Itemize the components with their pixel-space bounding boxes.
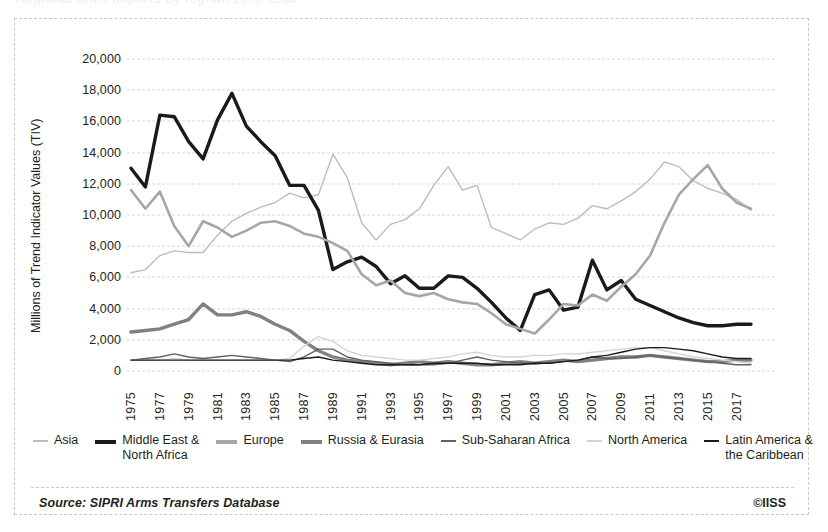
legend-label-line1: Sub-Saharan Africa: [462, 433, 570, 447]
x-tick-label: 1993: [384, 392, 398, 421]
legend-line-icon: [95, 440, 116, 444]
x-tick-label: 1981: [211, 392, 225, 421]
y-axis-label: Millions of Trend Indicator Values (TIV): [29, 0, 47, 71]
x-tick-label: 1997: [441, 392, 455, 421]
plot-area: [127, 59, 775, 371]
legend-label-line1: Russia & Eurasia: [328, 433, 424, 447]
series-line: [131, 154, 751, 273]
legend-label: Sub-Saharan Africa: [462, 433, 570, 448]
source-note: Source: SIPRI Arms Transfers Database: [39, 496, 280, 510]
figure-title-text: Regional arms imports by region, 1975-20…: [16, 0, 297, 6]
legend-label-line2: the Caribbean: [725, 448, 813, 463]
legend-item[interactable]: Asia: [33, 433, 78, 448]
y-tick-label: 6,000: [55, 270, 121, 284]
x-tick-label: 2005: [557, 392, 571, 421]
y-tick-label: 12,000: [55, 177, 121, 191]
legend-line-icon: [301, 440, 322, 444]
chart-panel: Millions of Trend Indicator Values (TIV)…: [14, 18, 809, 515]
legend-label-line1: Asia: [54, 433, 78, 447]
legend-line-icon: [441, 440, 456, 442]
x-tick-label: 2007: [585, 392, 599, 421]
series-svg: [127, 59, 775, 371]
legend-item[interactable]: Sub-Saharan Africa: [441, 433, 570, 448]
y-tick-label: 2,000: [55, 333, 121, 347]
copyright-note: ©IISS: [753, 496, 786, 510]
chart-legend: AsiaMiddle East &North AfricaEuropeRussi…: [33, 433, 793, 479]
legend-label: Europe: [243, 433, 283, 448]
legend-label: Asia: [54, 433, 78, 448]
x-axis-ticks: 1975197719791981198319851987198919911993…: [127, 375, 775, 421]
legend-line-icon: [33, 440, 48, 442]
legend-label: Middle East &North Africa: [122, 433, 199, 463]
x-tick-label: 2011: [643, 393, 657, 421]
legend-line-icon: [704, 440, 719, 442]
y-tick-label: 20,000: [55, 52, 121, 66]
x-tick-label: 1983: [239, 392, 253, 421]
y-tick-label: 10,000: [55, 208, 121, 222]
legend-label-line1: Latin America &: [725, 433, 813, 447]
legend-label-line1: Europe: [243, 433, 283, 447]
x-tick-label: 2015: [701, 392, 715, 421]
x-tick-label: 1985: [268, 392, 282, 421]
footer-divider: [31, 487, 794, 488]
x-tick-label: 2009: [614, 392, 628, 421]
legend-line-icon: [587, 440, 602, 442]
series-line: [131, 337, 751, 364]
x-tick-label: 1975: [124, 392, 138, 421]
chart-figure: Regional arms imports by region, 1975-20…: [0, 0, 828, 532]
y-tick-label: 4,000: [55, 302, 121, 316]
y-axis-ticks: 20,00018,00016,00014,00012,00010,0008,00…: [55, 59, 121, 371]
y-tick-label: 18,000: [55, 83, 121, 97]
legend-label-line2: North Africa: [122, 448, 199, 463]
legend-item[interactable]: Middle East &North Africa: [95, 433, 199, 463]
x-tick-label: 2003: [528, 392, 542, 421]
legend-item[interactable]: Russia & Eurasia: [301, 433, 424, 448]
y-tick-label: 16,000: [55, 114, 121, 128]
legend-label: Latin America &the Caribbean: [725, 433, 813, 463]
legend-label: Russia & Eurasia: [328, 433, 424, 448]
legend-item[interactable]: Europe: [216, 433, 283, 448]
legend-label-line1: North America: [608, 433, 687, 447]
figure-title-cropped: Regional arms imports by region, 1975-20…: [0, 0, 828, 10]
legend-line-icon: [216, 440, 237, 444]
x-tick-label: 2001: [499, 392, 513, 421]
plot-block: Millions of Trend Indicator Values (TIV)…: [15, 19, 810, 423]
x-tick-label: 1987: [297, 392, 311, 421]
y-tick-label: 0: [55, 364, 121, 378]
x-tick-label: 1989: [326, 392, 340, 421]
x-tick-label: 1979: [182, 392, 196, 421]
x-tick-label: 1995: [412, 392, 426, 421]
x-tick-label: 1991: [355, 392, 369, 421]
y-axis-label-text: Millions of Trend Indicator Values (TIV): [29, 73, 43, 333]
legend-label: North America: [608, 433, 687, 448]
series-canvas: [127, 59, 775, 371]
y-tick-label: 14,000: [55, 146, 121, 160]
legend-item[interactable]: Latin America &the Caribbean: [704, 433, 813, 463]
x-tick-label: 2013: [672, 392, 686, 421]
legend-label-line1: Middle East &: [122, 433, 199, 447]
x-tick-label: 1999: [470, 392, 484, 421]
legend-item[interactable]: North America: [587, 433, 687, 448]
x-tick-label: 2017: [730, 392, 744, 421]
x-tick-label: 1977: [153, 392, 167, 421]
y-tick-label: 8,000: [55, 239, 121, 253]
